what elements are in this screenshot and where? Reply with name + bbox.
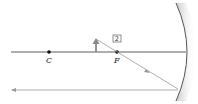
point-c bbox=[47, 50, 51, 54]
reflected-arrowhead-icon bbox=[11, 88, 16, 92]
mirror-diagram: C F 2 bbox=[0, 0, 198, 104]
ray-number-box: 2 bbox=[113, 35, 121, 43]
incident-ray bbox=[96, 39, 178, 89]
label-c: C bbox=[46, 56, 52, 65]
label-f: F bbox=[113, 56, 120, 65]
svg-text:2: 2 bbox=[115, 35, 119, 43]
